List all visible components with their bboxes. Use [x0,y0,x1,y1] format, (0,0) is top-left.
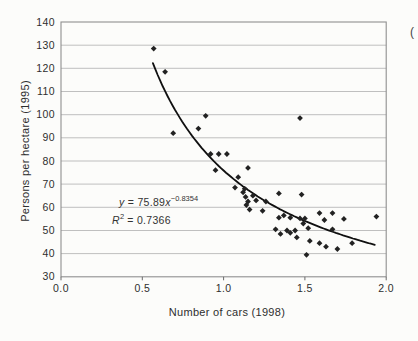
data-point-marker [170,130,176,136]
data-point-marker [224,151,230,157]
data-point-marker [232,185,238,191]
x-tick-label: 0.5 [124,283,160,294]
data-point-marker [253,198,259,204]
x-tick-label: 2.0 [368,283,404,294]
data-point-marker [341,216,347,222]
page-text-fragment: ( [410,25,414,39]
data-point-marker [216,151,222,157]
data-point-marker [260,208,266,214]
figure-scatter-chart: 304050607080901001101201301400.00.51.01.… [0,0,418,341]
data-point-marker [276,191,282,197]
plot-frame [61,22,386,277]
x-tick-label: 1.0 [206,283,242,294]
data-point-marker [235,174,241,180]
data-point-marker [299,192,305,198]
data-point-marker [335,246,341,252]
data-point-marker [281,213,287,219]
y-tick-label: 40 [0,248,55,259]
data-point-marker [322,217,328,223]
r-squared-lhs: R [112,214,120,226]
data-point-marker [307,238,313,244]
y-tick-label: 140 [0,17,55,28]
data-point-marker [278,231,284,237]
data-point-marker [203,113,209,119]
r-squared-value: = 0.7366 [124,214,171,226]
x-axis-title: Number of cars (1998) [169,306,285,318]
data-point-marker [151,46,157,52]
y-tick-label: 30 [0,271,55,282]
data-point-marker [162,69,168,75]
data-point-marker [304,252,310,258]
data-point-marker [323,244,329,250]
data-point-marker [213,167,219,173]
data-point-marker [317,240,323,246]
r-squared-label: R2 = 0.7366 [112,212,171,226]
data-point-marker [196,126,202,132]
data-point-marker [374,214,380,220]
data-point-marker [243,194,249,200]
data-point-marker [349,240,355,246]
data-point-marker [297,115,303,121]
trendline-curve [153,63,375,245]
y-tick-label: 130 [0,40,55,51]
equation-exponent: −0.8354 [171,194,198,203]
y-axis-title: Persons per hectare (1995) [19,80,31,222]
x-tick-label: 1.5 [287,283,323,294]
data-point-marker [317,210,323,216]
y-tick-label: 50 [0,225,55,236]
data-point-marker [276,215,282,221]
data-point-marker [273,226,279,232]
data-point-marker [294,235,300,241]
data-point-marker [245,165,251,171]
x-tick-label: 0.0 [43,283,79,294]
y-tick-label: 120 [0,63,55,74]
trendline-equation: y = 75.89x−0.8354 [119,194,198,208]
data-point-marker [292,228,298,234]
equation-coefficient: = 75.89 [125,196,166,208]
data-point-marker [330,210,336,216]
